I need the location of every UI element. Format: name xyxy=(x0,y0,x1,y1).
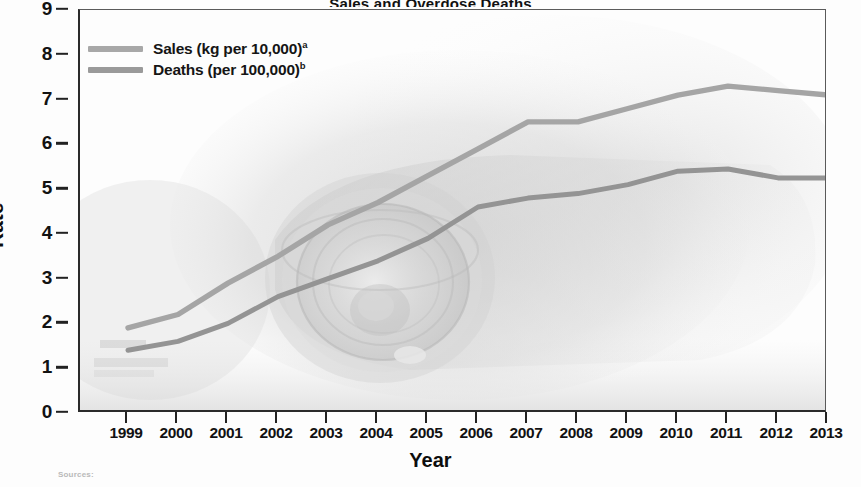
x-tick-mark-2008 xyxy=(575,412,577,423)
x-tick-label-2003: 2003 xyxy=(310,424,343,442)
x-axis-title: Year xyxy=(0,449,861,472)
legend-swatch-sales xyxy=(88,46,143,52)
legend-swatch-deaths xyxy=(88,67,143,73)
x-tick-label-2001: 2001 xyxy=(210,424,243,442)
x-tick-mark-2007 xyxy=(525,412,527,423)
x-tick-mark-1999 xyxy=(125,412,127,423)
x-tick-label-2011: 2011 xyxy=(710,424,742,442)
y-tick-label-5: 5 xyxy=(42,177,52,199)
y-tick-label-3: 3 xyxy=(42,267,52,289)
x-tick-label-2009: 2009 xyxy=(610,424,643,442)
source-note: Sources: xyxy=(58,470,94,479)
y-tick-label-9: 9 xyxy=(42,0,52,20)
y-tick-mark-7 xyxy=(56,97,68,99)
y-tick-label-7: 7 xyxy=(42,88,52,110)
figure-title-cropped: Sales and Overdose Deaths xyxy=(0,0,861,7)
y-tick-mark-0 xyxy=(56,411,68,413)
x-tick-label-2010: 2010 xyxy=(660,424,693,442)
legend-footnote-marker-deaths: b xyxy=(300,60,306,71)
x-tick-label-2013: 2013 xyxy=(810,424,843,442)
x-tick-label-2006: 2006 xyxy=(460,424,493,442)
x-tick-mark-2012 xyxy=(775,412,777,423)
y-tick-mark-5 xyxy=(56,187,68,189)
legend-label-deaths: Deaths (per 100,000)b xyxy=(153,60,305,79)
y-tick-label-2: 2 xyxy=(42,311,52,333)
x-tick-mark-2010 xyxy=(675,412,677,423)
x-tick-label-2004: 2004 xyxy=(360,424,393,442)
x-tick-mark-2000 xyxy=(175,412,177,423)
x-tick-mark-2004 xyxy=(375,412,377,423)
y-tick-mark-3 xyxy=(56,276,68,278)
x-tick-mark-2006 xyxy=(475,412,477,423)
x-tick-mark-2013 xyxy=(825,412,827,423)
y-tick-mark-2 xyxy=(56,321,68,323)
legend-item-deaths[interactable]: Deaths (per 100,000)b xyxy=(88,59,307,80)
x-tick-mark-2005 xyxy=(425,412,427,423)
y-tick-label-6: 6 xyxy=(42,132,52,154)
y-tick-mark-4 xyxy=(56,232,68,234)
x-tick-mark-2011 xyxy=(725,412,727,423)
x-tick-label-2002: 2002 xyxy=(260,424,293,442)
legend-label-sales: Sales (kg per 10,000)a xyxy=(153,39,307,58)
x-tick-label-2000: 2000 xyxy=(160,424,193,442)
x-tick-label-2005: 2005 xyxy=(410,424,443,442)
y-tick-label-1: 1 xyxy=(42,356,52,378)
x-tick-label-2008: 2008 xyxy=(560,424,593,442)
y-tick-mark-6 xyxy=(56,142,68,144)
x-tick-label-2007: 2007 xyxy=(510,424,543,442)
series-line-deaths xyxy=(128,169,826,350)
x-tick-mark-2003 xyxy=(325,412,327,423)
y-tick-label-0: 0 xyxy=(42,401,52,423)
x-tick-label-1999: 1999 xyxy=(110,424,143,442)
legend-footnote-marker-sales: a xyxy=(302,39,307,50)
y-tick-mark-1 xyxy=(56,366,68,368)
y-tick-mark-9 xyxy=(56,8,68,10)
x-tick-label-2012: 2012 xyxy=(760,424,793,442)
y-tick-label-8: 8 xyxy=(42,43,52,65)
figure-opioid-sales-deaths: Sales and Overdose Deaths Rate 012345678… xyxy=(0,0,861,487)
x-tick-mark-2009 xyxy=(625,412,627,423)
legend-item-sales[interactable]: Sales (kg per 10,000)a xyxy=(88,38,307,59)
legend: Sales (kg per 10,000)aDeaths (per 100,00… xyxy=(88,38,307,80)
x-tick-mark-2001 xyxy=(225,412,227,423)
x-tick-mark-2002 xyxy=(275,412,277,423)
y-axis-ticks: 0123456789 xyxy=(0,0,78,487)
y-tick-label-4: 4 xyxy=(42,222,52,244)
y-tick-mark-8 xyxy=(56,53,68,55)
